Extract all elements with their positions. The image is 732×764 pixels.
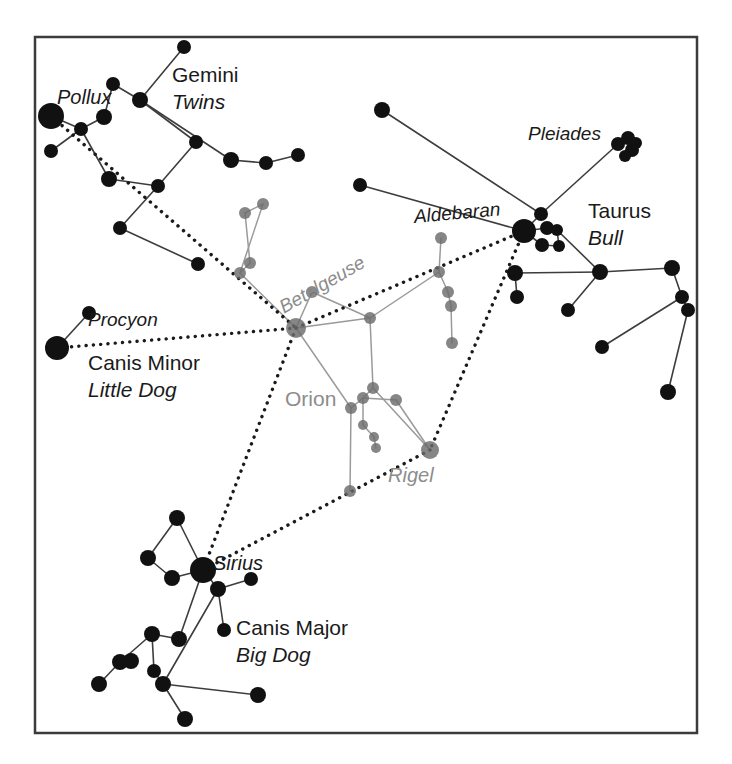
star-marker	[374, 102, 390, 118]
star-chart-figure: PolluxGeminiTwinsPleiadesAldebaranTaurus…	[0, 0, 732, 764]
constellation-line-dim	[296, 318, 370, 328]
constellation-line	[158, 142, 196, 186]
star-marker	[164, 570, 180, 586]
star-marker	[151, 179, 165, 193]
star-marker	[259, 156, 273, 170]
star-marker	[512, 219, 536, 243]
star-marker	[535, 238, 549, 252]
star-marker	[286, 318, 306, 338]
star-marker	[147, 664, 161, 678]
constellation-line	[600, 268, 672, 272]
star-marker	[217, 623, 231, 637]
label-sirius: Sirius	[213, 553, 263, 574]
star-marker	[358, 420, 368, 430]
label-canis-major: Canis Major	[236, 617, 348, 639]
star-marker	[630, 137, 642, 149]
constellation-line	[120, 228, 198, 264]
star-marker	[112, 654, 128, 670]
constellation-line-dim	[370, 272, 439, 318]
star-marker	[250, 687, 266, 703]
star-marker	[244, 257, 256, 269]
star-marker	[510, 290, 524, 304]
star-marker	[132, 92, 148, 108]
star-marker	[140, 550, 156, 566]
star-marker	[561, 303, 575, 317]
star-marker	[74, 122, 88, 136]
star-marker	[189, 135, 203, 149]
star-marker	[534, 207, 548, 221]
constellation-line	[668, 310, 688, 392]
star-marker	[144, 626, 160, 642]
star-marker	[244, 572, 258, 586]
star-marker	[371, 443, 381, 453]
label-big-dog: Big Dog	[236, 644, 311, 666]
constellation-line-dim	[396, 400, 430, 450]
label-twins: Twins	[172, 91, 225, 113]
star-marker	[369, 432, 379, 442]
star-marker	[44, 144, 58, 158]
label-pollux: Pollux	[57, 87, 111, 108]
constellation-lines-dim	[240, 204, 452, 491]
label-procyon: Procyon	[88, 310, 158, 330]
star-marker	[345, 402, 357, 414]
star-marker	[155, 676, 171, 692]
star-marker	[177, 711, 193, 727]
constellation-line-dim	[350, 408, 351, 491]
label-orion: Orion	[285, 388, 336, 410]
star-marker	[191, 257, 205, 271]
star-marker	[435, 232, 447, 244]
star-marker	[446, 337, 458, 349]
constellation-line-dim	[370, 318, 373, 388]
star-marker	[681, 303, 695, 317]
star-marker	[507, 265, 523, 281]
star-marker	[257, 198, 269, 210]
star-marker	[96, 109, 112, 125]
star-marker	[177, 40, 191, 54]
star-marker	[551, 224, 563, 236]
star-marker	[390, 394, 402, 406]
star-marker	[291, 148, 305, 162]
pointer-line	[51, 116, 296, 328]
star-marker	[239, 207, 251, 219]
star-marker	[664, 260, 680, 276]
star-marker	[353, 178, 367, 192]
star-marker	[619, 150, 631, 162]
label-pleiades: Pleiades	[528, 124, 601, 144]
label-bull: Bull	[588, 227, 623, 249]
star-marker	[445, 300, 457, 312]
label-canis-minor: Canis Minor	[88, 352, 200, 374]
constellation-line	[602, 297, 682, 347]
constellation-line-dim	[373, 388, 430, 450]
star-marker	[364, 312, 376, 324]
star-marker	[442, 286, 454, 298]
star-marker	[223, 152, 239, 168]
star-marker	[592, 264, 608, 280]
label-little-dog: Little Dog	[88, 379, 177, 401]
star-marker	[234, 267, 246, 279]
star-marker	[433, 266, 445, 278]
star-marker	[357, 392, 369, 404]
star-marker	[91, 676, 107, 692]
label-taurus: Taurus	[588, 200, 651, 222]
label-gemini: Gemini	[172, 64, 239, 86]
star-marker	[171, 631, 187, 647]
star-marker	[421, 441, 439, 459]
star-marker	[45, 336, 69, 360]
star-marker	[169, 510, 185, 526]
star-marker	[675, 290, 689, 304]
star-marker	[553, 240, 565, 252]
star-marker	[101, 171, 117, 187]
pointer-line	[203, 328, 296, 570]
star-marker	[367, 382, 379, 394]
star-marker	[113, 221, 127, 235]
pointer-line	[57, 328, 296, 348]
label-rigel: Rigel	[388, 465, 434, 486]
star-marker	[660, 384, 676, 400]
constellation-line	[163, 589, 218, 684]
star-marker	[210, 581, 226, 597]
constellation-line	[163, 684, 258, 695]
constellation-line	[515, 272, 600, 273]
star-marker	[344, 485, 356, 497]
star-marker	[595, 340, 609, 354]
